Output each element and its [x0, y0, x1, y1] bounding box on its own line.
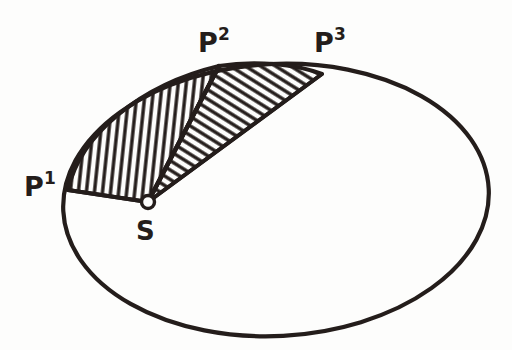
label-p3-superscript: 3: [334, 24, 346, 44]
label-p3: P 3: [314, 24, 346, 58]
label-s-text: S: [136, 216, 155, 246]
label-p2-base: P: [198, 27, 218, 58]
sun-focus-circle-icon: [142, 196, 155, 209]
figure-canvas: P 1 P 2 P 3 S: [0, 0, 512, 350]
label-p2: P 2: [198, 24, 230, 58]
focus-point-s-marker: [142, 196, 155, 209]
label-p1-superscript: 1: [44, 168, 56, 188]
label-p1-base: P: [24, 171, 44, 202]
label-p2-superscript: 2: [218, 24, 230, 44]
label-p3-base: P: [314, 27, 334, 58]
label-s: S: [136, 216, 155, 246]
label-p1: P 1: [24, 168, 56, 202]
orbital-diagram-figure: P 1 P 2 P 3 S: [0, 0, 512, 350]
